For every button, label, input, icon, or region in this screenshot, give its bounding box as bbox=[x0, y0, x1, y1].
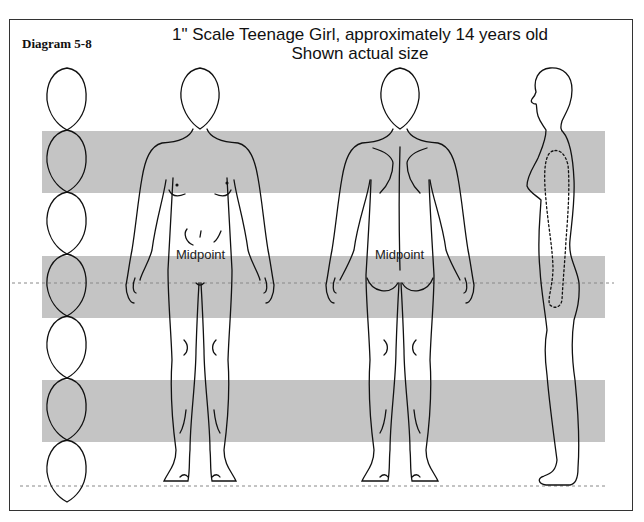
head-scale-column bbox=[47, 68, 86, 502]
side-view-figure bbox=[527, 68, 579, 485]
arm-dashed-outline bbox=[545, 151, 569, 308]
figure-drawings bbox=[0, 0, 644, 522]
back-midpoint-label: Midpoint bbox=[375, 247, 424, 262]
front-view-figure bbox=[126, 68, 274, 481]
front-midpoint-label: Midpoint bbox=[176, 247, 225, 262]
back-view-figure bbox=[326, 68, 474, 481]
